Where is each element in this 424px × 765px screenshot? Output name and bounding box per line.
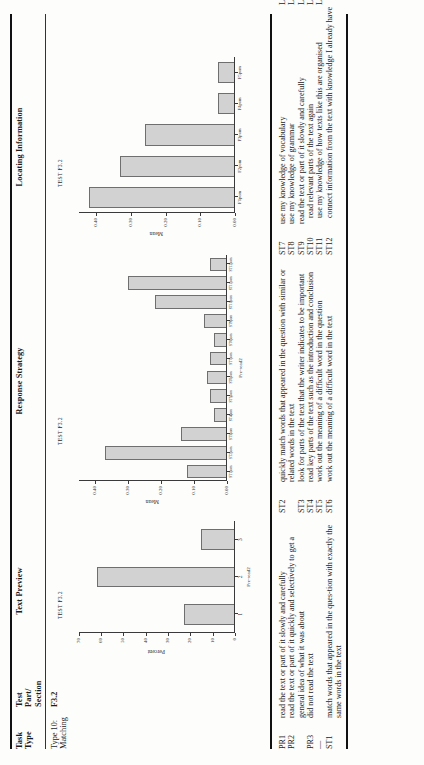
bar [218,62,235,83]
legend-item-key: — [315,718,324,749]
y-axis-tick [235,213,236,217]
bar [89,187,235,208]
bar [204,314,227,328]
legend-item-text: work out the meaning of a difficult word… [325,255,334,482]
legend-item: ST2quickly match words that appeared in … [278,255,297,513]
legend-item-key: ST3 [297,482,306,513]
legend-item: PR2read the text or part of it quickly a… [287,513,306,749]
legend-item: ST12connect information from the text wi… [325,5,334,255]
header-response-strategy: Response Strategy [15,247,24,515]
legend-item-key: ST4 [306,482,315,513]
y-axis-tick-label: 30 [165,638,171,643]
bar [210,258,226,272]
rotated-page-canvas: Task Type Test Part/ Section Text Previe… [0,0,424,765]
x-axis-tick-label: F5pom [237,66,242,79]
table-bottom-rule [270,14,272,749]
chart-locating-information: TEST F3.20.000.100.200.300.40F1pomF2pomF… [49,47,261,247]
y-axis-tick [200,213,201,217]
y-axis-tick [168,633,169,637]
y-axis-tick-label: 10 [210,638,216,643]
y-axis-tick-label: 0.00 [224,486,230,495]
legend-item-text: look for parts of the text that the writ… [297,255,306,482]
bar [187,465,226,479]
legend-item: ST11use my knowledge of how texts like t… [315,5,324,255]
y-axis-tick-label: 0.10 [197,218,203,227]
x-axis-tick-label: F2pom [237,160,242,173]
y-axis-tick-label: 0.40 [92,486,98,495]
legend-item: ST5work out the meaning of a difficult w… [315,255,324,513]
bar [120,156,234,177]
y-axis-tick-label: 0.10 [191,486,197,495]
legend-item-key: ST9 [297,224,306,255]
legend-item-text: match words that appeared in the ques-ti… [325,513,344,718]
table-row: Type 10: Matching F3.2 TEST F3.201020304… [49,14,267,749]
legend-item: ST1match words that appeared in the ques… [325,513,344,749]
header-text-preview: Text Preview [15,515,24,667]
y-axis-tick-label: 70 [76,638,82,643]
bar [97,567,235,588]
y-axis-tick [128,481,129,485]
header-locating-information: Locating Information [15,47,24,247]
y-axis-title: Mean [146,498,159,505]
y-axis-title: Mean [150,230,163,237]
cell-test-part-value: F3.2 [50,692,59,707]
y-axis-tick-label: 0 [232,638,238,641]
cell-task-type-line2: Matching [59,717,68,749]
header-task-type: Task Type [15,707,34,749]
chart-locating-information-plot: TEST F3.20.000.100.200.300.40F1pomF2pomF… [49,47,261,247]
y-axis-tick [96,213,97,217]
legend-item-key: L2 [287,0,296,5]
bar [181,427,227,441]
header-test-part-line2: Part/ [24,667,33,707]
plot-area: 0.000.100.200.300.40ST1pomST2pomST3pomST… [79,255,227,481]
y-axis-tick-label: 0.20 [158,486,164,495]
cell-test-part-section: F3.2 [49,667,59,707]
x-axis-title: Pre-read2 [238,358,244,377]
legend-column-1: PR1read the text or part of it slowly an… [278,513,344,749]
y-axis-tick [213,633,214,637]
legend-item-key: L4 [306,0,315,5]
legend-item-key: ST7 [278,224,287,255]
y-axis-tick [194,481,195,485]
chart-response-strategy-plot: TEST F3.20.000.100.200.300.40ST1pomST2po… [49,247,261,515]
legend-item-key: ST2 [278,482,287,513]
y-axis [79,212,235,213]
x-axis-tick-label: ST5pom [229,390,233,402]
x-axis-title: Pre-read2 [246,567,252,586]
header-test-part-line1: Test [15,667,24,707]
legend-item-key: ST12 [325,218,334,255]
y-axis-tick [166,213,167,217]
x-axis-tick-label: ST8pom [229,334,233,346]
y-axis-tick-label: 0.30 [128,218,134,227]
legend-item-text: work out the meaning of a difficult word… [315,255,324,482]
bar [210,389,226,403]
x-axis-tick-label: ST12pom [229,257,233,271]
chart-response-strategy: TEST F3.20.000.100.200.300.40ST1pomST2po… [49,247,261,515]
legend-item-text: use my knowledge of vocabulary [278,5,287,224]
legend-item-key: PR3 [306,718,315,749]
plot-area: 0.000.100.200.300.40F1pomF2pomF3pomF4pom… [79,57,235,213]
legend-item-key: L3 [297,0,306,5]
y-axis-tick [95,481,96,485]
legend-item: L5could not answer the question [315,0,324,5]
summary-table: Task Type Test Part/ Section Text Previe… [10,14,348,749]
y-axis [79,480,227,481]
bar [145,124,235,145]
x-axis-tick-label: F1pom [237,191,242,204]
legend-item-key: L1 [278,0,287,5]
legend-item: L3by understanding how information in th… [297,0,306,5]
x-axis-tick-label: 2 [237,576,243,579]
y-axis-tick [146,633,147,637]
y-axis-tick [123,633,124,637]
x-axis-tick-label: ST9pom [229,315,233,327]
header-test-part-section: Test Part/ Section [15,667,43,707]
y-axis-tick [101,633,102,637]
y-axis-title: Percent [147,648,164,655]
x-axis-tick-label: ST3pom [229,428,233,440]
legend-item-key: L5 [315,0,324,5]
y-axis-tick [190,633,191,637]
x-axis-tick-label: ST1pom [229,465,233,477]
legend-item: L2by putting information together across… [287,0,296,5]
y-axis-tick [235,633,236,637]
y-axis-tick [161,481,162,485]
